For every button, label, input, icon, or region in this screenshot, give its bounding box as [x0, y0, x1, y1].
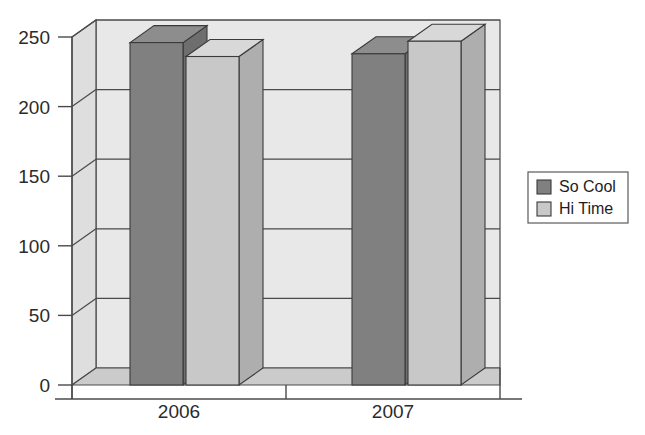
- bar-front-face: [352, 54, 405, 385]
- y-tick-label-250: 250: [18, 27, 50, 48]
- bar-side-face: [461, 24, 485, 385]
- y-tick-label-200: 200: [18, 97, 50, 118]
- legend-label-so-cool: So Cool: [559, 178, 616, 195]
- y-tick-label-50: 50: [29, 305, 50, 326]
- y-tick-label-150: 150: [18, 166, 50, 187]
- bar-front-face: [186, 57, 239, 386]
- y-axis: [58, 37, 72, 399]
- x-category-label-2007: 2007: [372, 401, 414, 422]
- bar-front-face: [408, 41, 461, 385]
- legend: So Cool Hi Time: [528, 172, 628, 223]
- plot-left-wall: [72, 20, 96, 385]
- chart-svg: 250 200 150 100 50 0: [0, 0, 645, 435]
- legend-swatch-hi-time: [537, 202, 551, 216]
- y-tick-label-0: 0: [39, 375, 50, 396]
- legend-swatch-so-cool: [537, 180, 551, 194]
- bar-2007-hi-time: [408, 24, 485, 385]
- x-category-label-2006: 2006: [158, 401, 200, 422]
- y-tick-label-100: 100: [18, 236, 50, 257]
- bar-side-face: [239, 40, 263, 386]
- bar-chart-3d: 250 200 150 100 50 0: [0, 0, 645, 435]
- legend-label-hi-time: Hi Time: [559, 200, 613, 217]
- bar-2006-hi-time: [186, 40, 263, 386]
- bar-front-face: [130, 43, 183, 385]
